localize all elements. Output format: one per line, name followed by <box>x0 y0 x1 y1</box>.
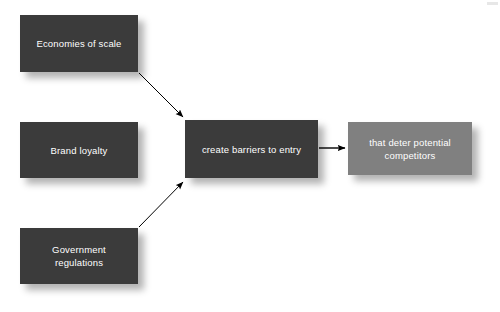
edge-government-to-barriers <box>139 182 183 227</box>
node-brand-loyalty[interactable]: Brand loyalty <box>20 122 138 178</box>
diagram-canvas: Economies of scale Brand loyalty Governm… <box>0 0 500 312</box>
node-government-regulations-label: Government regulations <box>52 243 106 269</box>
node-brand-loyalty-label: Brand loyalty <box>51 144 108 157</box>
node-create-barriers-to-entry-label: create barriers to entry <box>202 143 301 156</box>
node-that-deter-potential-competitors[interactable]: that deter potential competitors <box>348 122 472 175</box>
node-economies-of-scale-label: Economies of scale <box>36 37 121 50</box>
scan-artifact <box>487 2 498 5</box>
node-government-regulations[interactable]: Government regulations <box>20 228 138 284</box>
node-that-deter-potential-competitors-label: that deter potential competitors <box>369 136 451 162</box>
node-economies-of-scale[interactable]: Economies of scale <box>20 15 138 72</box>
node-create-barriers-to-entry[interactable]: create barriers to entry <box>185 120 318 178</box>
edge-economies-to-barriers <box>139 73 183 117</box>
